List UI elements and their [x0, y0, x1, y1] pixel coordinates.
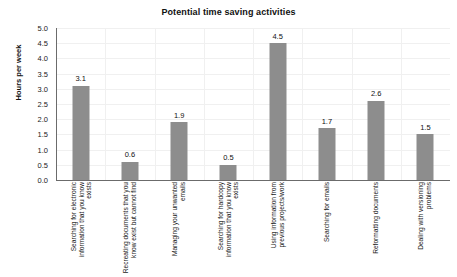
x-label-slot: Recreating documents that you know exist…: [105, 182, 154, 277]
bar-value-label: 3.1: [75, 75, 85, 83]
y-tick-label: 2.5: [0, 100, 48, 109]
x-label-slot: Searching for emails: [302, 182, 351, 277]
x-axis-label: Dealing with versioning problems: [418, 182, 433, 275]
x-label-slot: Managing your unwanted emails: [155, 182, 204, 277]
y-tick-label: 3.0: [0, 84, 48, 93]
bar[interactable]: [368, 101, 385, 180]
x-axis-label: Searching for hardcopy information that …: [217, 182, 240, 275]
y-tick-label: 2.0: [0, 115, 48, 124]
bar-value-label: 4.5: [272, 33, 282, 41]
y-tick-label: 1.0: [0, 145, 48, 154]
y-axis-line: [56, 28, 57, 181]
x-label-slot: Searching for electronic information tha…: [56, 182, 105, 277]
y-axis-tick-labels: 0.00.51.01.52.02.53.03.54.04.55.0: [0, 28, 52, 180]
bar[interactable]: [318, 128, 335, 180]
x-axis-label: Reformatting documents: [372, 182, 380, 275]
y-tick-label: 4.0: [0, 54, 48, 63]
bar-value-label: 1.5: [420, 124, 430, 132]
x-axis-line: [56, 180, 450, 181]
x-axis-label: Searching for emails: [323, 182, 331, 275]
y-tick-label: 0.5: [0, 160, 48, 169]
chart-title: Potential time saving activities: [0, 7, 457, 17]
bar-value-label: 0.6: [125, 151, 135, 159]
bar-value-label: 1.9: [174, 112, 184, 120]
y-tick-label: 3.5: [0, 69, 48, 78]
bar-slot: 1.9: [155, 28, 204, 180]
bar-slot: 4.5: [253, 28, 302, 180]
bar[interactable]: [121, 162, 138, 180]
x-axis-label: Managing your unwanted emails: [172, 182, 187, 275]
bar[interactable]: [417, 134, 434, 180]
bar[interactable]: [220, 165, 237, 180]
bar-slot: 0.6: [105, 28, 154, 180]
bar-slot: 1.5: [401, 28, 450, 180]
x-label-slot: Searching for hardcopy information that …: [204, 182, 253, 277]
bar-value-label: 1.7: [322, 118, 332, 126]
bar-value-label: 2.6: [371, 90, 381, 98]
x-label-slot: Dealing with versioning problems: [401, 182, 450, 277]
x-label-slot: Reformatting documents: [352, 182, 401, 277]
y-tick-label: 0.0: [0, 176, 48, 185]
bar[interactable]: [171, 122, 188, 180]
bar-slot: 0.5: [204, 28, 253, 180]
plot-area: 3.10.61.90.54.51.72.61.5: [56, 28, 450, 180]
x-label-slot: Using information from previous projects…: [253, 182, 302, 277]
bar-chart: Potential time saving activities Hours p…: [0, 0, 457, 277]
y-tick-label: 5.0: [0, 24, 48, 33]
x-axis-label: Searching for electronic information tha…: [69, 182, 92, 275]
bar-slot: 2.6: [352, 28, 401, 180]
x-axis-label: Using information from previous projects…: [270, 182, 285, 275]
x-axis-category-labels: Searching for electronic information tha…: [56, 182, 450, 277]
y-tick-label: 4.5: [0, 39, 48, 48]
x-axis-label: Recreating documents that you know exist…: [122, 182, 137, 275]
bar-value-label: 0.5: [223, 154, 233, 162]
bar-slot: 1.7: [302, 28, 351, 180]
bar[interactable]: [72, 86, 89, 180]
bar[interactable]: [269, 43, 286, 180]
y-tick-label: 1.5: [0, 130, 48, 139]
bar-slot: 3.1: [56, 28, 105, 180]
